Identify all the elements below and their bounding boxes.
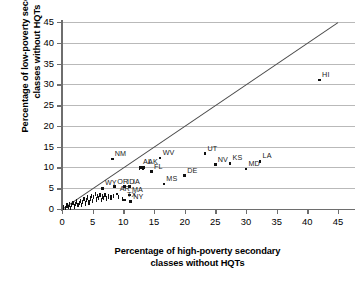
scatter-chart: Percentage of low-poverty secondary clas… — [0, 0, 355, 284]
y-tick-label: 45 — [32, 16, 54, 27]
point-label-nm: NM — [115, 149, 126, 158]
identity-reference-line — [62, 22, 339, 210]
x-tick-label: 45 — [327, 216, 349, 227]
point-label-ut: UT — [207, 144, 217, 153]
x-tick — [123, 210, 124, 214]
data-point — [113, 194, 114, 198]
data-point — [118, 195, 119, 199]
data-point — [214, 163, 217, 166]
data-point — [101, 187, 104, 190]
y-tick-label: 20 — [32, 120, 54, 131]
point-label-de: DE — [187, 166, 197, 175]
x-axis-title-line1: Percentage of high-poverty secondary — [115, 246, 281, 256]
data-point — [129, 200, 132, 203]
data-point — [111, 158, 114, 161]
data-point — [91, 194, 92, 198]
data-point — [150, 170, 153, 173]
y-tick-label: 25 — [32, 99, 54, 110]
data-point — [87, 195, 88, 199]
y-tick-label: 40 — [32, 37, 54, 48]
data-point — [245, 168, 248, 171]
x-tick-label: 10 — [112, 216, 134, 227]
x-tick-label: 20 — [174, 216, 196, 227]
data-point — [123, 199, 126, 202]
x-tick — [338, 210, 339, 214]
x-tick — [307, 210, 308, 214]
data-point — [204, 152, 207, 155]
x-tick — [93, 210, 94, 214]
data-point — [99, 193, 100, 197]
y-tick-label: 30 — [32, 78, 54, 89]
data-point — [159, 157, 162, 160]
x-tick — [185, 210, 186, 214]
y-tick-label: 35 — [32, 58, 54, 69]
point-label-wy: WY — [105, 178, 117, 187]
y-tick-label: 10 — [32, 161, 54, 172]
y-axis-title-line1: Percentage of low-poverty secondary — [20, 0, 30, 133]
point-label-nv: NV — [218, 155, 228, 164]
point-label-la: LA — [263, 151, 272, 160]
data-point — [318, 79, 321, 82]
data-point — [95, 192, 96, 196]
x-tick — [215, 210, 216, 214]
x-tick-label: 30 — [235, 216, 257, 227]
data-point — [139, 166, 140, 170]
x-tick-label: 15 — [143, 216, 165, 227]
data-point — [108, 194, 109, 198]
x-tick-label: 40 — [296, 216, 318, 227]
point-label-fl: FL — [154, 162, 163, 171]
y-tick-label: 5 — [32, 182, 54, 193]
data-point — [183, 174, 186, 177]
x-axis-line — [61, 209, 355, 210]
y-tick-label: 0 — [32, 203, 54, 214]
data-point — [110, 195, 111, 199]
x-tick — [154, 210, 155, 214]
x-tick — [277, 210, 278, 214]
data-point — [88, 200, 89, 204]
point-label-ms: MS — [166, 174, 177, 183]
point-label-wv: WV — [163, 148, 175, 157]
data-point — [122, 197, 123, 201]
plot-area: HIUTWVNMLAKSNVMDALAKFLDEMSORIDIAWYMAARTX… — [62, 22, 338, 209]
x-tick-label: 5 — [82, 216, 104, 227]
x-axis-title: Percentage of high-poverty secondary cla… — [40, 246, 355, 269]
data-point — [92, 199, 93, 203]
x-tick — [246, 210, 247, 214]
data-point — [229, 162, 232, 165]
point-label-ks: KS — [233, 153, 243, 162]
x-tick-label: 0 — [51, 216, 73, 227]
point-label-hi: HI — [322, 70, 329, 79]
x-axis-title-line2: classes without HQTs — [151, 258, 245, 268]
data-point — [163, 183, 166, 186]
x-tick-label: 35 — [266, 216, 288, 227]
data-point — [106, 196, 107, 200]
point-label-ny: NY — [133, 192, 143, 201]
x-tick-label: 25 — [204, 216, 226, 227]
y-tick-label: 15 — [32, 141, 54, 152]
point-label-md: MD — [249, 159, 260, 168]
